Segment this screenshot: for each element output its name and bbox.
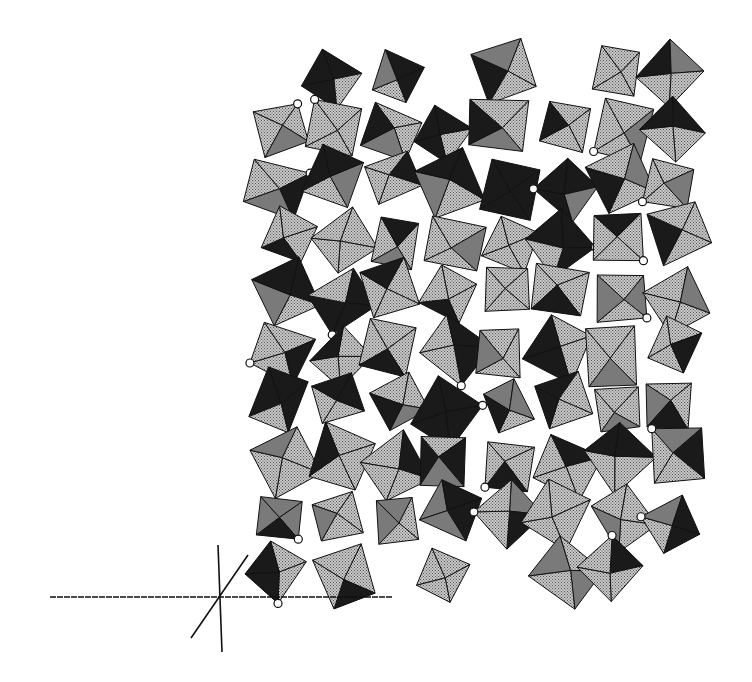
tetrahedron-face [528, 570, 574, 609]
atom-sphere [311, 95, 319, 103]
atom-sphere [638, 198, 646, 206]
tetrahedron-face [670, 39, 704, 73]
polyhedra-layer [243, 38, 711, 609]
atom-sphere [648, 425, 656, 433]
tetrahedron-face [636, 39, 671, 77]
atom-sphere [639, 257, 647, 265]
atom-sphere [457, 382, 465, 390]
atom-sphere [590, 148, 598, 156]
tetrahedron-face [245, 572, 279, 603]
atom-sphere [294, 100, 302, 108]
atom-sphere [246, 359, 254, 367]
tetrahedron-face [435, 105, 473, 134]
atom-sphere [294, 535, 302, 543]
atom-sphere [637, 513, 645, 521]
atom-sphere [274, 599, 282, 607]
tetrahedron-face [310, 326, 344, 361]
atom-sphere [481, 483, 489, 491]
tetrahedron-face [311, 238, 340, 273]
atom-sphere [470, 508, 478, 516]
tetrahedron-face [474, 511, 510, 549]
atom-sphere [479, 401, 487, 409]
crystal-structure-figure [0, 0, 752, 682]
atom-sphere [643, 314, 651, 322]
atom-sphere [529, 185, 537, 193]
atom-sphere [608, 532, 616, 540]
